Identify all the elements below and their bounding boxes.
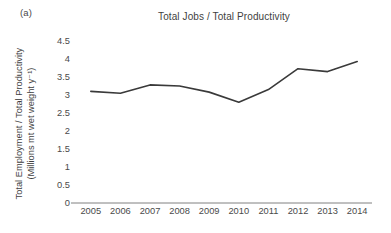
y-axis-title-line-1: Total Employment / Total Productivity bbox=[14, 34, 26, 214]
y-axis-title-line-2: (Millions mt wet weight y⁻¹) bbox=[26, 34, 38, 214]
figure-panel-a: (a) Total Jobs / Total Productivity Tota… bbox=[0, 0, 391, 233]
y-tick-label: 4 bbox=[44, 54, 70, 64]
y-tick-label: 3.5 bbox=[44, 72, 70, 82]
data-series-group bbox=[91, 62, 357, 103]
x-tick-label: 2014 bbox=[340, 205, 374, 217]
panel-label: (a) bbox=[20, 7, 32, 18]
y-axis-title: Total Employment / Total Productivity (M… bbox=[14, 34, 37, 214]
y-axis-tick-labels: 00.511.522.533.544.5 bbox=[44, 34, 70, 210]
data-line-series-0 bbox=[91, 62, 357, 103]
y-tick-label: 1 bbox=[44, 162, 70, 172]
y-tick-label: 0.5 bbox=[44, 180, 70, 190]
x-axis-tick-labels: 2005200620072008200920102011201220132014 bbox=[76, 205, 372, 221]
y-tick-label: 0 bbox=[44, 198, 70, 208]
y-tick-label: 3 bbox=[44, 90, 70, 100]
chart-title: Total Jobs / Total Productivity bbox=[76, 11, 372, 22]
y-tick-label: 4.5 bbox=[44, 36, 70, 46]
y-tick-label: 2 bbox=[44, 126, 70, 136]
y-tick-label: 1.5 bbox=[44, 144, 70, 154]
y-tick-label: 2.5 bbox=[44, 108, 70, 118]
